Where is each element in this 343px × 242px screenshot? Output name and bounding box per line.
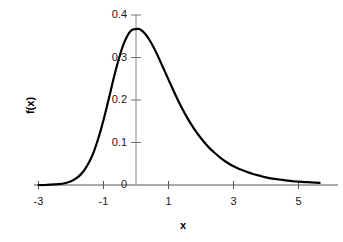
density-curve-series bbox=[39, 29, 320, 185]
y-tick-label: 0.1 bbox=[83, 137, 132, 148]
y-tick-label: 0.2 bbox=[83, 94, 132, 105]
y-tick-label: 0 bbox=[83, 179, 132, 190]
y-axis-title: f(x) bbox=[25, 86, 36, 126]
y-tick-label: 0.3 bbox=[83, 52, 132, 63]
x-tick-label: -1 bbox=[84, 196, 124, 207]
x-tick-label: -3 bbox=[19, 196, 59, 207]
chart-figure: -3-1135 00.10.20.30.4 f(x) x bbox=[0, 0, 343, 242]
x-tick-label: 1 bbox=[149, 196, 189, 207]
y-axis-group bbox=[131, 15, 141, 185]
x-tick-label: 5 bbox=[279, 196, 319, 207]
x-tick-label: 3 bbox=[214, 196, 254, 207]
y-tick-label: 0.4 bbox=[83, 9, 132, 20]
x-axis-title: x bbox=[163, 220, 203, 231]
